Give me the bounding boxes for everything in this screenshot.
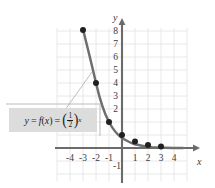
x-axis-label: x [196,156,202,167]
equation-base-paren-open: ( [62,112,67,128]
exponential-function-figure: 8 7 6 5 4 3 2 -1 -4 -3 -2 -1 1 2 3 4 y x [0,0,215,188]
y-tick-label-negative: -1 [113,161,121,171]
y-tick-label: 5 [113,65,118,75]
data-point [80,27,86,33]
data-point [93,80,99,86]
x-tick-label: -4 [66,153,74,163]
fraction-denominator: 2 [67,121,73,129]
graph-canvas: 8 7 6 5 4 3 2 -1 -4 -3 -2 -1 1 2 3 4 y x [0,0,215,188]
equation-text: y = f ( x ) = (12)x [9,108,97,132]
y-tick-label: 3 [113,91,118,101]
equation-exponent: x [78,116,81,124]
x-tick-label: -1 [105,153,113,163]
y-tick-labels: 8 7 6 5 4 3 2 -1 [113,26,121,171]
data-point [145,142,151,148]
x-tick-label: 3 [159,153,164,163]
equation-equals-2: = [55,115,61,126]
y-tick-label: 2 [113,104,118,114]
y-tick-label: 7 [113,39,118,49]
y-tick-label: 6 [113,52,118,62]
data-point [106,119,112,125]
equation-equals-1: = [31,115,37,126]
y-axis-label: y [112,12,118,23]
x-tick-label: 1 [133,153,138,163]
x-tick-label: 2 [146,153,151,163]
x-axis-arrow [193,145,200,152]
y-tick-label: 8 [113,26,118,36]
equation-label-box: y = f ( x ) = (12)x [9,108,97,132]
x-tick-label: 4 [172,153,177,163]
equation-paren-close: ) [49,115,52,126]
axes [55,18,200,183]
x-tick-label: -3 [79,153,87,163]
equation-base-paren-close: ) [74,112,79,128]
equation-lhs: y [25,115,29,126]
data-point [158,144,164,150]
data-point [119,132,125,138]
exponential-curve [84,32,183,149]
data-point [132,139,138,145]
equation-base-fraction: 12 [67,112,73,128]
y-axis-arrow [119,18,126,25]
y-tick-label: 4 [113,78,118,88]
x-tick-label: -2 [92,153,100,163]
